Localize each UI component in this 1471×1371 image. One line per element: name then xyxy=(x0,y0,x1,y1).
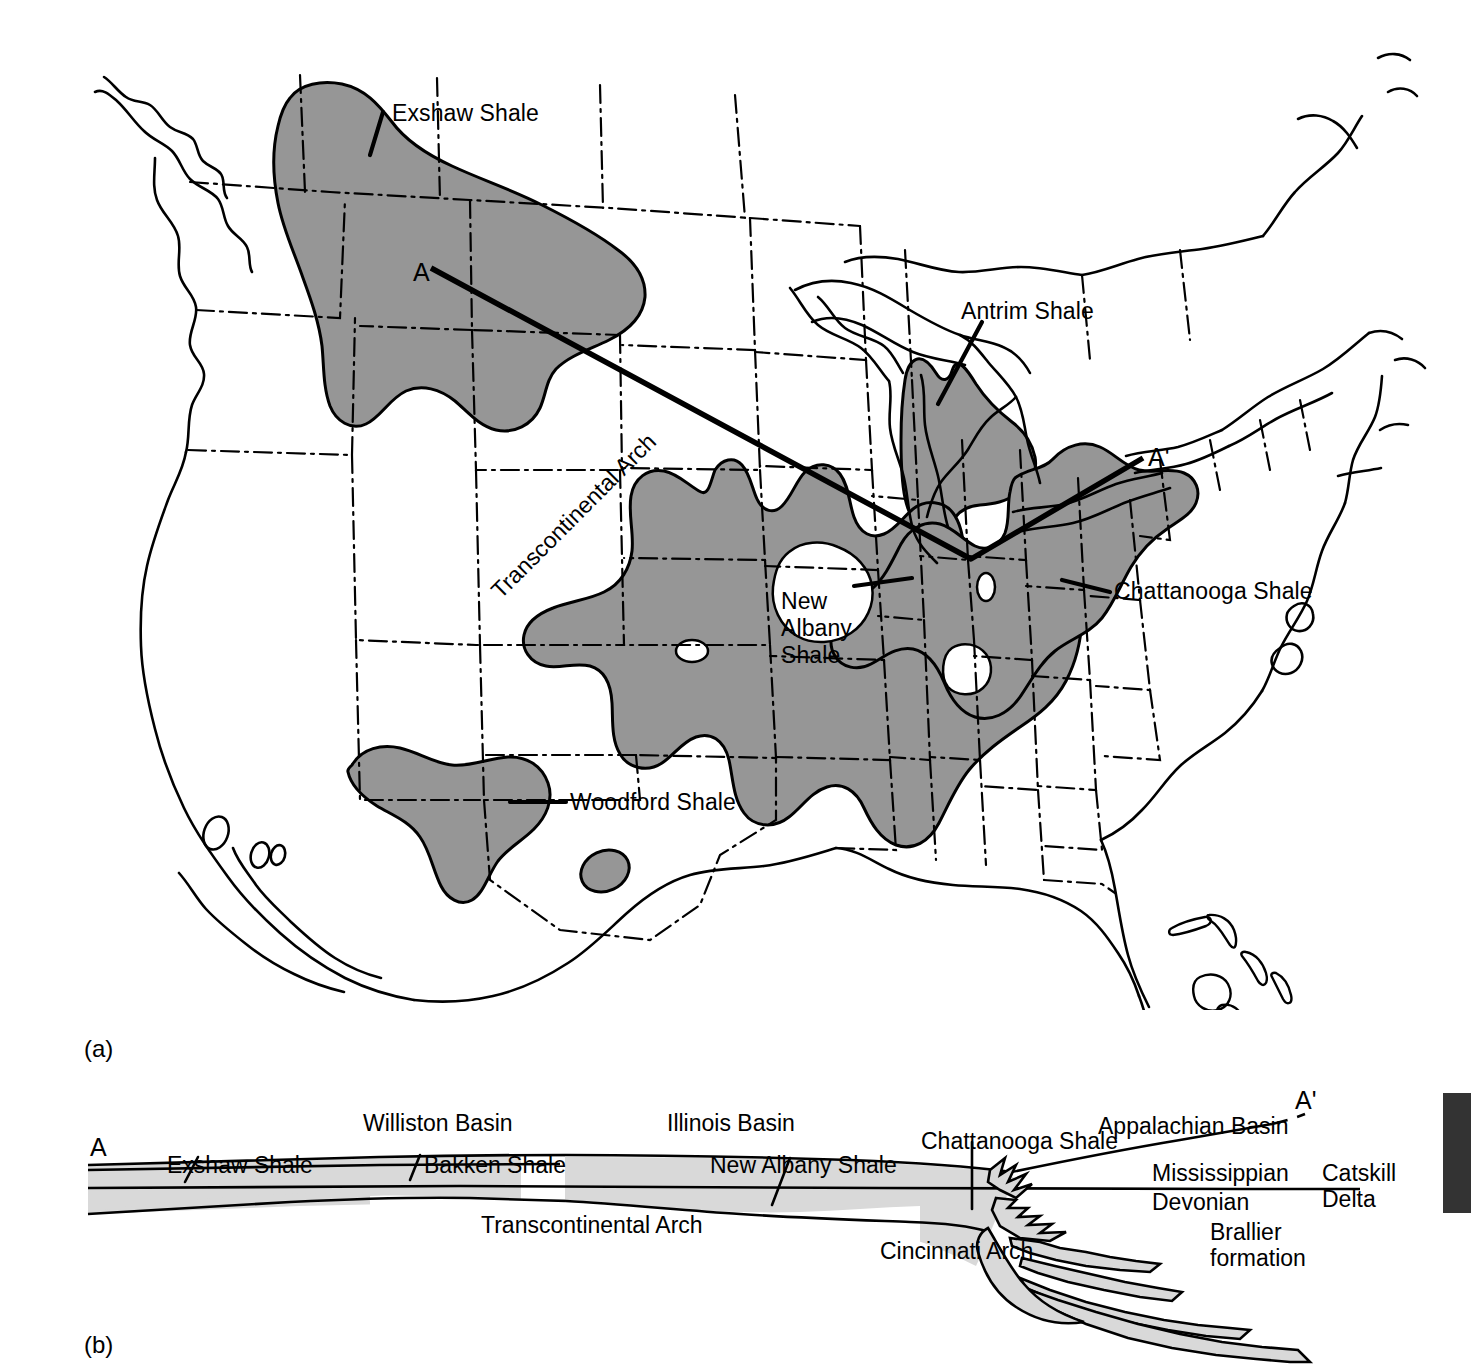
map-label-antrim-shale: Antrim Shale xyxy=(961,298,1094,325)
shale-hole-2 xyxy=(977,573,995,601)
xs-label-bakken-shale: Bakken Shale xyxy=(424,1152,566,1178)
figure-container: Exshaw Shale Antrim Shale Chattanooga Sh… xyxy=(0,0,1471,1371)
shale-regions xyxy=(274,83,1198,903)
xs-label-illinois-basin: Illinois Basin xyxy=(667,1110,795,1136)
panel-b-letter: (b) xyxy=(84,1331,113,1359)
shale-hole-3 xyxy=(943,644,991,694)
shale-hole-1 xyxy=(676,640,708,662)
xs-label-mississippian: Mississippian xyxy=(1152,1160,1289,1186)
xs-label-chattanooga-shale: Chattanooga Shale xyxy=(921,1128,1118,1154)
xs-label-catskill-delta: Catskill Delta xyxy=(1322,1160,1396,1212)
shale-region-exshaw xyxy=(274,83,645,431)
xs-label-new-albany-shale: New Albany Shale xyxy=(710,1152,897,1178)
bahamas-islands xyxy=(1169,915,1291,1010)
shale-region-woodford xyxy=(348,747,550,903)
panel-a-map: Exshaw Shale Antrim Shale Chattanooga Sh… xyxy=(0,0,1471,1010)
north-america-map xyxy=(0,0,1471,1010)
xs-label-exshaw-shale: Exshaw Shale xyxy=(167,1152,313,1178)
map-label-woodford-shale: Woodford Shale xyxy=(570,789,736,816)
xs-label-a-prime: A' xyxy=(1295,1087,1316,1113)
map-label-new-albany-shale: New Albany Shale xyxy=(781,588,852,669)
map-label-chattanooga-shale: Chattanooga Shale xyxy=(1114,578,1313,605)
map-point-a-prime: A' xyxy=(1148,443,1169,472)
xs-label-transcontinental-arch: Transcontinental Arch xyxy=(481,1212,703,1238)
xs-label-brallier-formation: Brallier formation xyxy=(1210,1219,1306,1271)
xs-label-williston-basin: Williston Basin xyxy=(363,1110,513,1136)
xs-label-a: A xyxy=(90,1134,107,1160)
panel-b-cross-section: A A' Williston Basin Illinois Basin Appa… xyxy=(0,1010,1471,1371)
xs-label-appalachian-basin: Appalachian Basin xyxy=(1098,1113,1289,1139)
xs-label-devonian: Devonian xyxy=(1152,1189,1249,1215)
shale-region-woodford-outlier xyxy=(574,842,636,899)
stratigraphic-cross-section xyxy=(0,1010,1471,1371)
map-point-a: A xyxy=(413,258,430,287)
margin-marker-block xyxy=(1443,1093,1471,1213)
map-label-exshaw-shale: Exshaw Shale xyxy=(392,100,539,127)
xs-label-cincinnati-arch: Cincinnati Arch xyxy=(880,1238,1033,1264)
